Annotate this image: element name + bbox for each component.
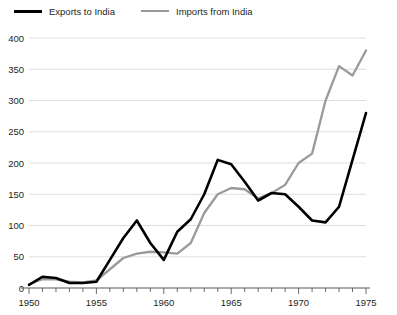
y-axis-tick-label: 350 <box>8 64 24 75</box>
x-axis <box>21 288 370 294</box>
y-axis-tick-label: 400 <box>8 33 24 44</box>
grid-lines <box>29 38 366 257</box>
series-line-imports <box>29 51 366 285</box>
y-axis-tick-label: 200 <box>8 158 24 169</box>
y-axis-tick-label: 150 <box>8 189 24 200</box>
x-axis-tick-label: 1975 <box>355 297 376 308</box>
data-series <box>29 51 366 285</box>
line-chart: Exports to India Imports from India 0501… <box>0 0 397 315</box>
x-axis-tick-label: 1960 <box>153 297 174 308</box>
y-axis-labels: 050100150200250300350400 <box>8 33 24 294</box>
x-axis-tick-label: 1965 <box>221 297 242 308</box>
y-axis-tick-label: 250 <box>8 126 24 137</box>
y-axis-tick-label: 50 <box>13 251 24 262</box>
y-axis-tick-label: 300 <box>8 95 24 106</box>
x-axis-tick-label: 1950 <box>18 297 39 308</box>
plot-area: 050100150200250300350400 195019551960196… <box>0 0 397 315</box>
x-axis-tick-label: 1955 <box>86 297 107 308</box>
y-axis-tick-label: 100 <box>8 220 24 231</box>
x-axis-tick-label: 1970 <box>288 297 309 308</box>
x-axis-labels: 195019551960196519701975 <box>18 297 376 308</box>
